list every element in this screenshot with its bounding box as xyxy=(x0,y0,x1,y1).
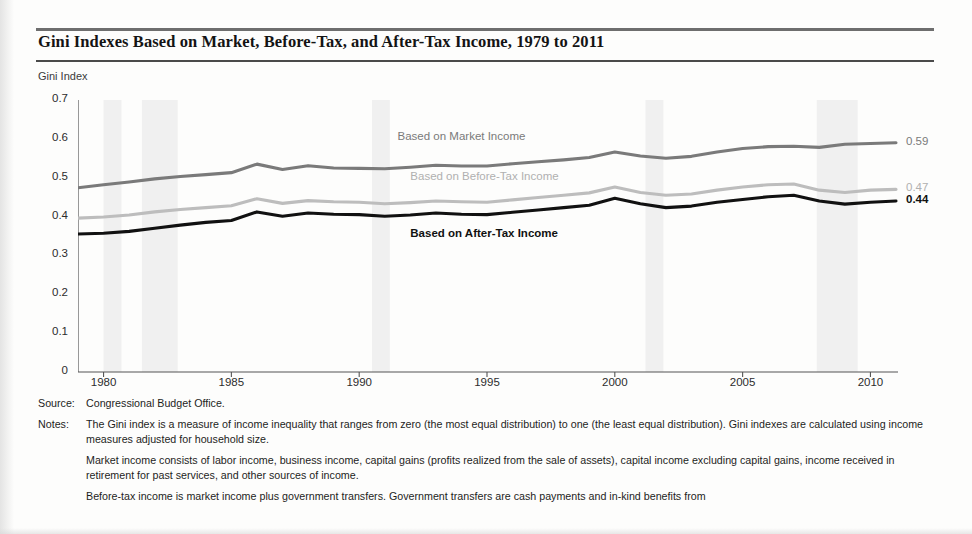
y-axis-tick-label: 0.4 xyxy=(34,209,68,221)
source-tag: Source: xyxy=(38,396,86,410)
series-end-value-label: 0.44 xyxy=(906,193,928,205)
series-end-value-label: 0.47 xyxy=(906,181,928,193)
series-inline-label: Based on After-Tax Income xyxy=(410,227,558,239)
title-rule-bottom xyxy=(36,60,934,62)
series-inline-label: Based on Before-Tax Income xyxy=(410,170,558,182)
notes-row: Notes: The Gini index is a measure of in… xyxy=(38,417,944,446)
x-axis-tick-label: 1980 xyxy=(84,376,124,388)
recession-band xyxy=(817,100,858,372)
notes-paragraph-1: The Gini index is a measure of income in… xyxy=(86,417,944,446)
notes-paragraph-2: Market income consists of labor income, … xyxy=(86,453,944,482)
x-axis-tick-label: 2010 xyxy=(850,376,890,388)
notes-paragraph-3: Before-tax income is market income plus … xyxy=(86,489,944,503)
y-axis-title: Gini Index xyxy=(38,70,88,82)
scan-edge-shadow xyxy=(0,0,14,534)
recession-band xyxy=(142,100,178,372)
series-line xyxy=(78,184,896,218)
y-axis-tick-label: 0.5 xyxy=(34,170,68,182)
x-axis-tick-label: 1995 xyxy=(467,376,507,388)
x-axis-tick-label: 1985 xyxy=(211,376,251,388)
y-axis-tick-label: 0.1 xyxy=(34,325,68,337)
title-rule-top xyxy=(36,28,934,31)
recession-band xyxy=(104,100,122,372)
y-axis-tick-label: 0.6 xyxy=(34,131,68,143)
x-axis-tick-label: 1990 xyxy=(339,376,379,388)
figure-page: Gini Indexes Based on Market, Before-Tax… xyxy=(0,0,972,534)
y-axis-tick-label: 0.2 xyxy=(34,286,68,298)
x-axis-tick-label: 2005 xyxy=(723,376,763,388)
notes-tag: Notes: xyxy=(38,417,86,431)
chart-canvas xyxy=(78,100,898,384)
figure-footnotes: Source: Congressional Budget Office. Not… xyxy=(38,396,944,510)
source-row: Source: Congressional Budget Office. xyxy=(38,396,944,410)
source-text: Congressional Budget Office. xyxy=(86,396,944,410)
recession-band xyxy=(372,100,390,372)
page-title: Gini Indexes Based on Market, Before-Tax… xyxy=(38,32,928,52)
x-axis-tick-label: 2000 xyxy=(595,376,635,388)
recession-band xyxy=(645,100,663,372)
y-axis-tick-label: 0.3 xyxy=(34,247,68,259)
scan-bottom-shadow xyxy=(0,528,972,534)
y-axis-tick-label: 0.7 xyxy=(34,92,68,104)
series-end-value-label: 0.59 xyxy=(906,135,928,147)
y-axis-tick-label: 0 xyxy=(34,364,68,376)
series-inline-label: Based on Market Income xyxy=(398,130,526,142)
